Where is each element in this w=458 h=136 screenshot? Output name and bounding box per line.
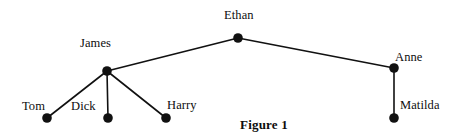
edge-james-harry bbox=[107, 71, 166, 118]
figure-container: EthanJamesAnneTomDickHarryMatilda Figure… bbox=[0, 0, 458, 136]
node-matilda[interactable] bbox=[389, 113, 399, 123]
node-tom[interactable] bbox=[42, 113, 52, 123]
edge-james-dick bbox=[107, 71, 108, 118]
node-label-ethan: Ethan bbox=[224, 9, 254, 22]
node-label-james: James bbox=[80, 37, 111, 50]
node-harry[interactable] bbox=[161, 113, 171, 123]
node-label-anne: Anne bbox=[395, 51, 422, 64]
edge-ethan-anne bbox=[238, 38, 394, 68]
node-label-matilda: Matilda bbox=[400, 99, 440, 112]
figure-caption: Figure 1 bbox=[240, 117, 288, 133]
node-james[interactable] bbox=[102, 66, 112, 76]
edge-layer bbox=[47, 38, 394, 118]
node-ethan[interactable] bbox=[233, 33, 243, 43]
node-anne[interactable] bbox=[389, 63, 399, 73]
node-label-tom: Tom bbox=[22, 100, 45, 113]
edge-ethan-james bbox=[107, 38, 238, 71]
node-label-harry: Harry bbox=[167, 99, 197, 112]
node-label-dick: Dick bbox=[71, 100, 96, 113]
node-dick[interactable] bbox=[103, 113, 113, 123]
